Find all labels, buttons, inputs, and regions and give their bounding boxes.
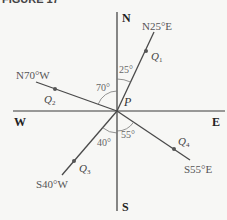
angle-arc-40	[103, 128, 117, 133]
svg-text:Q2: Q2	[44, 93, 56, 107]
svg-text:Q4: Q4	[178, 135, 190, 149]
angle-label-55: 55°	[121, 129, 135, 140]
svg-text:Q3: Q3	[79, 162, 91, 176]
west-label: W	[14, 115, 26, 129]
angle-label-25: 25°	[119, 64, 133, 75]
point-q2-label: Q2	[44, 93, 56, 107]
angle-arc-25	[117, 79, 131, 82]
point-q1-marker	[144, 49, 148, 53]
point-q3-label: Q3	[79, 162, 91, 176]
south-label: S	[122, 200, 129, 214]
point-q1-label: Q1	[151, 50, 163, 64]
north-label: N	[122, 11, 131, 25]
point-q4-marker	[172, 147, 176, 151]
bearing-label-q4: S55°E	[184, 163, 213, 175]
bearing-label-q2: N70°W	[16, 69, 50, 81]
bearing-diagram: FIGURE 17 N S E W P N25°E N70°W S40°W S5…	[0, 0, 227, 220]
angle-label-40: 40°	[97, 137, 111, 148]
center-label: P	[123, 95, 132, 109]
angle-label-70: 70°	[96, 82, 110, 93]
bearing-label-q3: S40°W	[36, 178, 69, 190]
svg-text:Q1: Q1	[151, 50, 163, 64]
point-q2-marker	[53, 87, 57, 91]
bearing-label-q1: N25°E	[142, 20, 172, 32]
figure-caption: FIGURE 17	[2, 0, 59, 5]
point-q3-marker	[72, 159, 76, 163]
east-label: E	[212, 115, 220, 129]
point-q4-label: Q4	[178, 135, 190, 149]
